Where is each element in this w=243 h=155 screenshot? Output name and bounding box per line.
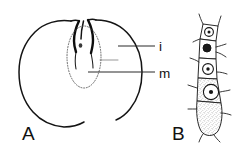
panel-label-b: B	[172, 123, 185, 144]
panel-a-drawing: i m A	[19, 19, 170, 144]
figure-drawing: i m A	[0, 0, 243, 155]
integument-outer-right-arc	[96, 20, 142, 120]
cell-1-nucleolus	[208, 31, 211, 34]
micropyle-cleft	[81, 21, 84, 39]
callout-label-megaspore: m	[159, 66, 170, 81]
megaspore-outline	[67, 26, 101, 88]
cell-4-nucleolus	[209, 90, 213, 94]
callout-label-integument: i	[159, 39, 162, 54]
cell-4-spine-right	[220, 90, 230, 92]
cell-5-spine-base-left	[199, 134, 203, 142]
cell-1-spine-left	[199, 14, 203, 24]
cell-2-spine-right-lower	[216, 52, 226, 57]
micropyle-wall-left	[74, 21, 79, 52]
figure-canvas: scientific-line-drawing	[0, 0, 243, 155]
panel-label-a: A	[22, 123, 35, 144]
cell-3-spine-right	[217, 72, 227, 74]
cell-5-spine-right	[221, 113, 231, 115]
nucellus-contour-left	[75, 52, 76, 69]
panel-b-drawing: B	[172, 14, 231, 144]
cell-2-spine-right	[216, 44, 226, 47]
cell-5-wall	[197, 101, 222, 136]
cell-5-spine-base	[214, 135, 220, 142]
nucellus-contour-right	[91, 53, 93, 68]
micropyle-wall-right	[88, 20, 93, 53]
cell-2-nucleus	[203, 44, 211, 52]
cell-3-nucleolus	[206, 67, 209, 70]
cell-1-spine-lower-left	[193, 39, 200, 42]
cell-4-spine-left	[188, 85, 197, 88]
cell-1-spine-right	[218, 16, 221, 26]
cell-3-spine-left	[190, 58, 199, 62]
megaspore-nucleus	[79, 43, 83, 48]
